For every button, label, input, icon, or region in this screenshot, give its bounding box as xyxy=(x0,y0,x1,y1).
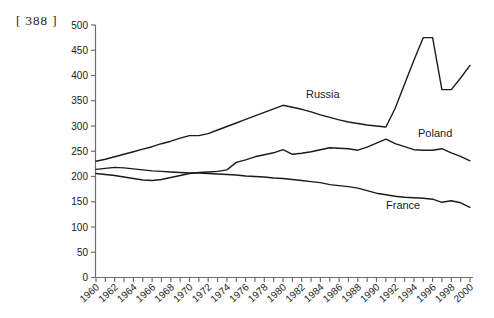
x-tick-label: 1990 xyxy=(358,281,382,304)
x-tick-label: 1974 xyxy=(208,281,232,304)
y-tick-label: 500 xyxy=(71,20,88,31)
x-tick-label: 1972 xyxy=(190,281,214,304)
x-axis-ticks: 1960196219641966196819701972197419761978… xyxy=(77,278,475,305)
y-axis-ticks: 050100150200250300350400450500 xyxy=(71,20,95,284)
x-tick-label: 1994 xyxy=(395,281,419,304)
x-tick-label: 1984 xyxy=(302,281,326,304)
x-tick-label: 1978 xyxy=(246,281,270,304)
y-tick-label: 50 xyxy=(77,247,89,258)
y-tick-label: 100 xyxy=(71,222,88,233)
x-tick-label: 1996 xyxy=(414,281,438,304)
x-tick-label: 1962 xyxy=(96,281,120,304)
y-tick-label: 250 xyxy=(71,146,88,157)
x-tick-label: 1992 xyxy=(377,281,401,304)
y-tick-label: 350 xyxy=(71,95,88,106)
y-tick-label: 200 xyxy=(71,171,88,182)
y-tick-label: 0 xyxy=(82,272,88,283)
x-tick-label: 1988 xyxy=(339,281,363,304)
x-tick-label: 1986 xyxy=(321,281,345,304)
y-tick-label: 150 xyxy=(71,196,88,207)
series-line-poland xyxy=(96,139,470,180)
y-tick-label: 450 xyxy=(71,45,88,56)
y-tick-label: 300 xyxy=(71,121,88,132)
x-tick-label: 1998 xyxy=(433,281,457,304)
x-tick-label: 1980 xyxy=(264,281,288,304)
series-label-poland: Poland xyxy=(418,127,452,139)
x-tick-label: 1966 xyxy=(134,281,158,304)
series-label-france: France xyxy=(386,199,420,211)
book-figure-page: [ 388 ] 05010015020025030035040045050019… xyxy=(0,0,494,318)
y-tick-label: 400 xyxy=(71,70,88,81)
series-label-russia: Russia xyxy=(306,88,341,100)
series-line-russia xyxy=(96,38,470,162)
x-tick-label: 1970 xyxy=(171,281,195,304)
x-tick-label: 2000 xyxy=(451,281,475,304)
x-tick-label: 1968 xyxy=(152,281,176,304)
x-tick-label: 1976 xyxy=(227,281,251,304)
x-tick-label: 1960 xyxy=(77,281,101,304)
x-tick-label: 1982 xyxy=(283,281,307,304)
x-tick-label: 1964 xyxy=(115,281,139,304)
line-chart: 0501001502002503003504004505001960196219… xyxy=(0,0,494,318)
